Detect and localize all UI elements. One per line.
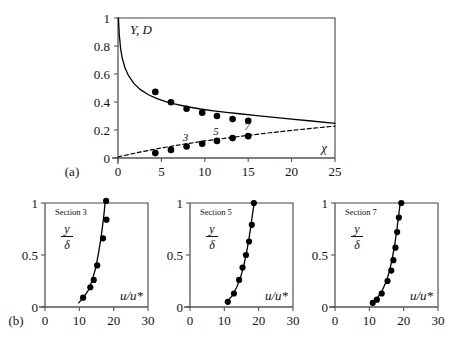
panel-a-x-tick-label: 10 bbox=[198, 164, 211, 179]
data-point bbox=[388, 268, 394, 274]
data-point bbox=[394, 229, 400, 235]
panel-b-label: (b) bbox=[8, 313, 23, 328]
section-5-ylabel-numerator: y bbox=[208, 222, 215, 236]
section-5-x-tick-label: 0 bbox=[187, 313, 194, 328]
section-5-ylabel-denominator: δ bbox=[209, 238, 215, 252]
section-3-x-tick-label: 10 bbox=[73, 313, 86, 328]
data-point bbox=[249, 222, 255, 228]
panel-a-label: (a) bbox=[65, 164, 79, 179]
data-point bbox=[396, 214, 402, 220]
data-point bbox=[199, 109, 206, 116]
section-5-y-tick-label: 0 bbox=[177, 300, 184, 315]
data-point bbox=[374, 297, 380, 303]
data-point bbox=[103, 198, 109, 204]
data-point bbox=[100, 235, 106, 241]
panel-a-y-tick-label: 1 bbox=[104, 11, 111, 26]
section-7-y-tick-label: 0.5 bbox=[312, 248, 328, 263]
figure-root: 00.20.40.60.810510152025Y, Dχ(a)35700.51… bbox=[0, 0, 453, 341]
panel-a-y-axis-label: Y, D bbox=[130, 22, 153, 37]
data-point bbox=[239, 264, 245, 270]
data-point bbox=[103, 217, 109, 223]
section-3-x-tick-label: 0 bbox=[42, 313, 49, 328]
section-5-x-tick-label: 10 bbox=[218, 313, 231, 328]
data-point bbox=[168, 147, 175, 154]
data-point bbox=[384, 278, 390, 284]
panel-a-y-tick-label: 0.8 bbox=[94, 39, 110, 54]
section-7-x-axis-label: u/u* bbox=[410, 288, 434, 303]
section-7-x-tick-label: 20 bbox=[397, 313, 410, 328]
data-point bbox=[94, 262, 100, 268]
data-point bbox=[91, 277, 97, 283]
profile-fit-path bbox=[227, 203, 254, 302]
section-3-ylabel-numerator: y bbox=[63, 222, 70, 236]
data-point bbox=[390, 257, 396, 263]
data-point bbox=[168, 99, 175, 106]
data-point bbox=[379, 290, 385, 296]
section-3-x-tick-label: 30 bbox=[142, 313, 155, 328]
data-point bbox=[243, 252, 249, 258]
data-point bbox=[229, 116, 236, 123]
panel-a-x-tick-label: 20 bbox=[285, 164, 298, 179]
data-point bbox=[245, 133, 252, 140]
section-3-title: Section 3 bbox=[55, 207, 87, 217]
section-7-x-tick-label: 30 bbox=[432, 313, 445, 328]
section-5-title: Section 5 bbox=[200, 207, 232, 217]
data-point bbox=[392, 245, 398, 251]
data-point bbox=[87, 284, 93, 290]
data-point bbox=[229, 135, 236, 142]
section-7-y-tick-label: 0 bbox=[322, 300, 329, 315]
section-7-title: Section 7 bbox=[345, 207, 377, 217]
data-point bbox=[199, 140, 206, 147]
panel-a-point-label-3: 3 bbox=[182, 131, 189, 143]
panel-a-y-tick-label: 0.6 bbox=[94, 67, 111, 82]
section-7-x-tick-label: 10 bbox=[363, 313, 376, 328]
section-3-x-tick-label: 20 bbox=[107, 313, 120, 328]
panel-a-x-axis-label: χ bbox=[319, 140, 327, 155]
data-point bbox=[231, 290, 237, 296]
figure-canvas: 00.20.40.60.810510152025Y, Dχ(a)35700.51… bbox=[0, 0, 453, 341]
data-point bbox=[225, 299, 231, 305]
data-point bbox=[80, 295, 86, 301]
data-point bbox=[251, 200, 257, 206]
panel-a-point-label-5: 5 bbox=[213, 125, 219, 137]
section-5-x-tick-label: 20 bbox=[252, 313, 265, 328]
data-point bbox=[183, 105, 190, 112]
panel-a-x-tick-label: 0 bbox=[115, 164, 122, 179]
section-5-y-tick-label: 1 bbox=[177, 196, 184, 211]
panel-a-y-tick-label: 0.2 bbox=[94, 123, 110, 138]
section-7-y-tick-label: 1 bbox=[322, 196, 329, 211]
panel-a-x-tick-label: 15 bbox=[242, 164, 255, 179]
section-3-x-axis-label: u/u* bbox=[120, 288, 144, 303]
d-curve-dashed--path bbox=[118, 126, 335, 157]
data-point bbox=[398, 200, 404, 206]
section-5-y-tick-label: 0.5 bbox=[167, 248, 183, 263]
data-point bbox=[183, 143, 190, 150]
panel-a-y-tick-label: 0.4 bbox=[94, 95, 111, 110]
data-point bbox=[214, 113, 221, 120]
section-5-x-axis-label: u/u* bbox=[265, 288, 289, 303]
section-5-x-tick-label: 30 bbox=[287, 313, 300, 328]
section-3-y-tick-label: 0.5 bbox=[22, 248, 38, 263]
panel-a-x-tick-label: 25 bbox=[329, 164, 342, 179]
section-3-ylabel-denominator: δ bbox=[64, 238, 70, 252]
section-7-ylabel-numerator: y bbox=[353, 222, 360, 236]
section-7-x-tick-label: 0 bbox=[332, 313, 339, 328]
panel-a-point-label-7: 7 bbox=[244, 120, 250, 132]
panel-a-frame bbox=[118, 18, 335, 158]
data-point bbox=[236, 277, 242, 283]
data-point bbox=[152, 89, 159, 96]
section-3-y-tick-label: 1 bbox=[32, 196, 39, 211]
panel-a-y-tick-label: 0 bbox=[104, 151, 111, 166]
data-point bbox=[214, 138, 221, 145]
section-3-y-tick-label: 0 bbox=[32, 300, 39, 315]
data-point bbox=[152, 150, 159, 157]
section-7-ylabel-denominator: δ bbox=[354, 238, 360, 252]
data-point bbox=[246, 238, 252, 244]
panel-a-x-tick-label: 5 bbox=[158, 164, 165, 179]
